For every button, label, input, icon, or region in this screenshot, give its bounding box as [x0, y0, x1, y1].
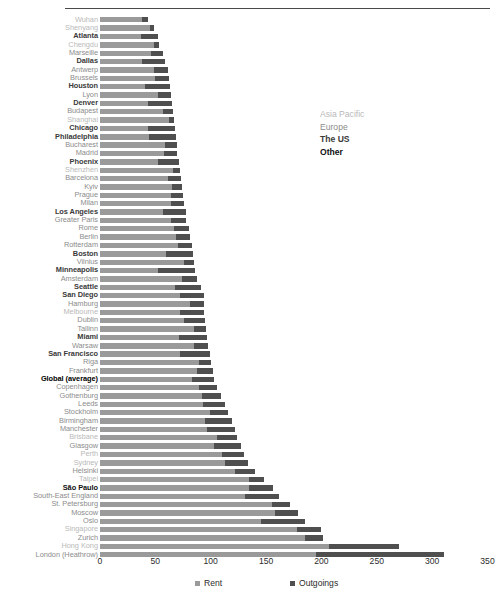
stacked-bar [100, 176, 181, 181]
bar-segment-outgoings [174, 226, 188, 231]
bar-segment-rent [100, 527, 297, 532]
stacked-bar [100, 519, 305, 524]
stacked-bar [100, 117, 174, 122]
bar-segment-rent [100, 535, 305, 540]
bar-segment-outgoings [166, 251, 193, 256]
bar-segment-rent [100, 251, 166, 256]
bar-segment-rent [100, 76, 155, 81]
bar-segment-outgoings [197, 368, 213, 373]
bar-segment-outgoings [203, 402, 225, 407]
x-axis-tick: 250 [370, 556, 384, 566]
chart-row: Singapore [0, 526, 496, 534]
series-legend-swatch [290, 581, 295, 586]
bar-segment-outgoings [142, 17, 148, 22]
stacked-bar [100, 418, 232, 423]
bar-segment-rent [100, 276, 182, 281]
bar-segment-outgoings [207, 427, 235, 432]
stacked-bar [100, 368, 213, 373]
bar-segment-outgoings [151, 51, 163, 56]
bar-segment-rent [100, 335, 179, 340]
bar-segment-rent [100, 51, 151, 56]
series-legend-swatch [195, 581, 200, 586]
bar-segment-rent [100, 377, 192, 382]
bar-segment-outgoings [175, 285, 200, 290]
bar-segment-rent [100, 452, 222, 457]
chart-row: Greater Paris [0, 217, 496, 225]
bar-segment-outgoings [305, 535, 323, 540]
x-axis-tick: 100 [204, 556, 218, 566]
bar-segment-outgoings [272, 502, 291, 507]
bar-segment-rent [100, 34, 141, 39]
bar-segment-rent [100, 502, 272, 507]
bar-segment-outgoings [173, 168, 180, 173]
bar-segment-outgoings [168, 176, 181, 181]
stacked-bar [100, 318, 205, 323]
chart-row: Helsinki [0, 467, 496, 475]
stacked-bar [100, 477, 264, 482]
bar-segment-rent [100, 393, 202, 398]
chart-row: Moscow [0, 509, 496, 517]
bar-segment-rent [100, 443, 214, 448]
bar-segment-outgoings [182, 276, 198, 281]
series-legend-item: Outgoings [290, 578, 338, 588]
bar-segment-rent [100, 544, 329, 549]
bar-segment-outgoings [194, 343, 208, 348]
stacked-bar [100, 527, 321, 532]
bar-segment-rent [100, 343, 194, 348]
stacked-bar [100, 402, 225, 407]
bar-segment-rent [100, 134, 149, 139]
stacked-bar [100, 193, 183, 198]
stacked-bar [100, 25, 154, 30]
bar-segment-rent [100, 176, 168, 181]
chart-row: Bucharest [0, 141, 496, 149]
bar-segment-outgoings [178, 243, 192, 248]
chart-row: San Francisco [0, 350, 496, 358]
bar-segment-outgoings [194, 326, 206, 331]
bar-segment-rent [100, 126, 148, 131]
stacked-bar [100, 494, 279, 499]
series-legend-item: Rent [195, 578, 222, 588]
stacked-bar [100, 427, 235, 432]
bar-segment-outgoings [214, 443, 241, 448]
stacked-bar [100, 544, 399, 549]
bar-segment-rent [100, 360, 199, 365]
bar-segment-outgoings [180, 351, 210, 356]
stacked-bar [100, 92, 171, 97]
bar-segment-rent [100, 168, 173, 173]
bar-segment-rent [100, 25, 150, 30]
stacked-bar [100, 293, 204, 298]
stacked-bar [100, 393, 221, 398]
bar-segment-rent [100, 243, 178, 248]
bar-segment-outgoings [155, 76, 168, 81]
bar-segment-rent [100, 101, 148, 106]
bar-segment-outgoings [171, 218, 187, 223]
stacked-bar [100, 218, 186, 223]
stacked-bar [100, 301, 204, 306]
stacked-bar [100, 209, 186, 214]
bar-segment-rent [100, 201, 171, 206]
bar-segment-rent [100, 209, 163, 214]
bar-segment-rent [100, 17, 142, 22]
bar-segment-rent [100, 477, 249, 482]
bar-segment-outgoings [164, 151, 177, 156]
bar-segment-outgoings [329, 544, 399, 549]
stacked-bar [100, 260, 194, 265]
bar-segment-rent [100, 293, 180, 298]
stacked-bar [100, 410, 228, 415]
bar-segment-outgoings [180, 310, 204, 315]
bar-segment-rent [100, 92, 158, 97]
stacked-bar [100, 134, 176, 139]
bar-segment-rent [100, 234, 176, 239]
stacked-bar [100, 335, 207, 340]
bar-segment-rent [100, 59, 142, 64]
stacked-bar [100, 76, 169, 81]
bar-segment-outgoings [158, 92, 171, 97]
stacked-bar [100, 243, 192, 248]
bar-segment-outgoings [165, 142, 177, 147]
bar-segment-rent [100, 402, 203, 407]
bar-segment-outgoings [261, 519, 305, 524]
stacked-bar [100, 469, 255, 474]
bar-segment-rent [100, 151, 164, 156]
bar-segment-rent [100, 226, 174, 231]
bar-segment-rent [100, 184, 172, 189]
